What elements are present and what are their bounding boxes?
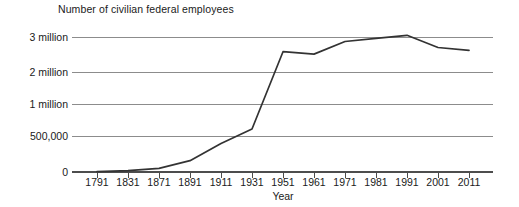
x-tick-label-1961: 1961 — [302, 176, 325, 188]
x-tick-label-1891: 1891 — [178, 176, 201, 188]
x-tick-label-1911: 1911 — [210, 176, 233, 188]
x-tick-label-1871: 1871 — [147, 176, 170, 188]
x-tick-label-2001: 2001 — [426, 176, 449, 188]
x-tick-label-2011: 2011 — [458, 176, 481, 188]
x-tick-label-1951: 1951 — [271, 176, 294, 188]
x-tick-label-1981: 1981 — [364, 176, 387, 188]
x-axis-title: Year — [272, 190, 293, 202]
x-tick-label-1971: 1971 — [333, 176, 356, 188]
x-tick-label-1831: 1831 — [116, 176, 139, 188]
x-tick-label-1791: 1791 — [85, 176, 108, 188]
chart-figure: Number of civilian federal employees 0 5… — [0, 0, 519, 207]
x-tick-label-1931: 1931 — [240, 176, 263, 188]
x-tick-label-1991: 1991 — [395, 176, 418, 188]
